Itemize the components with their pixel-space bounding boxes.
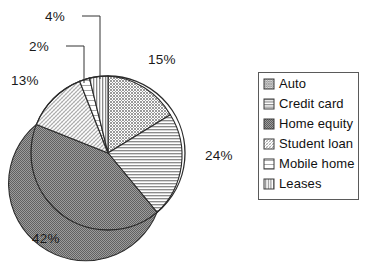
label-leases-pct: 4% [45,9,65,24]
legend-label-home-equity: Home equity [279,116,353,131]
chart-canvas: 4% 2% 13% 15% 24% 42% Auto Credit card [0,0,370,263]
pie-chart-figure: 4% 2% 13% 15% 24% 42% Auto Credit card [0,0,370,263]
legend-label-credit-card: Credit card [279,96,344,111]
legend-swatch-mobile-home [264,159,274,169]
legend-label-student-loan: Student loan [279,136,353,151]
legend-swatch-leases [264,179,274,189]
label-mobile-home-pct: 2% [29,39,49,54]
legend: Auto Credit card Home equity Student loa… [259,73,359,200]
legend-label-mobile-home: Mobile home [279,156,355,171]
legend-swatch-auto [264,79,274,89]
label-home-equity-pct: 42% [32,231,60,246]
legend-swatch-student-loan [264,139,274,149]
legend-swatch-credit-card [264,99,274,109]
label-credit-card-pct: 24% [205,148,233,163]
label-student-loan-pct: 13% [11,73,39,88]
legend-label-auto: Auto [279,76,306,91]
legend-label-leases: Leases [279,176,322,191]
label-auto-pct: 15% [148,52,176,67]
legend-swatch-home-equity [264,119,274,129]
